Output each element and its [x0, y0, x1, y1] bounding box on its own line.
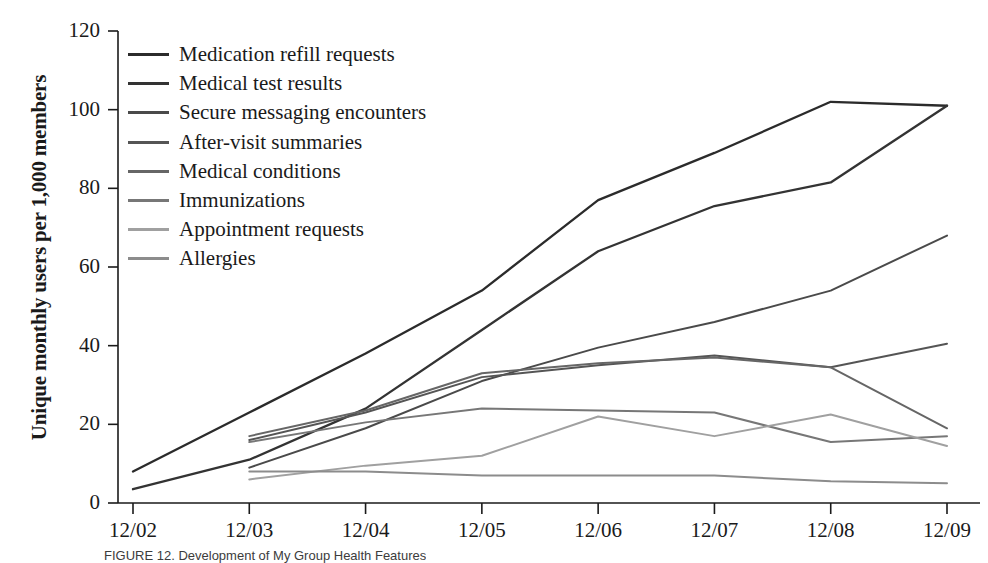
legend-line-icon [128, 199, 169, 202]
legend-item[interactable]: After-visit summaries [128, 128, 426, 157]
legend-line-icon [128, 228, 169, 231]
y-axis-tick-label: 120 [50, 20, 100, 41]
legend-item-label: Allergies [179, 248, 256, 269]
legend-item-label: After-visit summaries [179, 132, 362, 153]
x-axis-tick-label: 12/07 [666, 520, 762, 541]
y-axis-tick-label: 80 [50, 177, 100, 198]
y-axis-tick-label: 100 [50, 99, 100, 120]
legend-item-label: Medical conditions [179, 161, 341, 182]
y-axis-tick-label: 0 [50, 492, 100, 513]
figure-container: Unique monthly users per 1,000 members 0… [0, 0, 988, 563]
x-axis-tick-label: 12/05 [434, 520, 530, 541]
chart-legend: Medication refill requestsMedical test r… [128, 40, 426, 274]
legend-item[interactable]: Secure messaging encounters [128, 98, 426, 127]
x-axis-tick-label: 12/03 [201, 520, 297, 541]
legend-item[interactable]: Medical test results [128, 69, 426, 98]
legend-item-label: Immunizations [179, 190, 305, 211]
legend-item[interactable]: Allergies [128, 244, 426, 273]
legend-line-icon [128, 170, 169, 173]
series-line [249, 472, 947, 484]
legend-line-icon [128, 257, 169, 260]
legend-line-icon [128, 53, 169, 56]
x-axis-tick-label: 12/08 [783, 520, 879, 541]
legend-item-label: Secure messaging encounters [179, 102, 426, 123]
x-axis-tick-label: 12/06 [550, 520, 646, 541]
legend-item[interactable]: Immunizations [128, 186, 426, 215]
legend-item-label: Appointment requests [179, 219, 364, 240]
legend-item-label: Medical test results [179, 73, 342, 94]
x-axis-tick-label: 12/04 [318, 520, 414, 541]
legend-line-icon [128, 111, 169, 114]
legend-line-icon [128, 82, 169, 85]
y-axis-tick-label: 60 [50, 256, 100, 277]
legend-line-icon [128, 141, 169, 144]
legend-item-label: Medication refill requests [179, 44, 395, 65]
legend-item[interactable]: Medical conditions [128, 157, 426, 186]
y-axis-tick-label: 20 [50, 413, 100, 434]
y-axis-tick-label: 40 [50, 335, 100, 356]
legend-item[interactable]: Appointment requests [128, 215, 426, 244]
x-axis-tick-label: 12/02 [85, 520, 181, 541]
y-axis-ticks [108, 31, 118, 503]
x-axis-ticks [133, 503, 947, 514]
y-axis-title: Unique monthly users per 1,000 members [27, 23, 52, 493]
x-axis-tick-label: 12/09 [899, 520, 988, 541]
legend-item[interactable]: Medication refill requests [128, 40, 426, 69]
figure-caption: FIGURE 12. Development of My Group Healt… [104, 548, 426, 563]
